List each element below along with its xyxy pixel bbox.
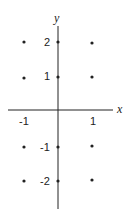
point xyxy=(22,179,25,182)
y-tick-label: 2 xyxy=(44,36,50,48)
y-axis-label: y xyxy=(53,11,60,25)
y-tick-label: -2 xyxy=(40,175,50,187)
point xyxy=(22,145,25,148)
coordinate-diagram: y x -1 1 2 1 -1 -2 xyxy=(0,0,134,220)
point xyxy=(22,76,25,79)
point xyxy=(90,144,93,147)
point xyxy=(56,179,59,182)
point xyxy=(90,41,93,44)
y-tick-label: 1 xyxy=(44,70,50,82)
point xyxy=(56,75,59,78)
point xyxy=(90,178,93,181)
x-axis-label: x xyxy=(116,102,123,116)
point xyxy=(56,145,59,148)
point xyxy=(22,40,25,43)
point xyxy=(90,75,93,78)
x-tick-label: 1 xyxy=(90,115,96,127)
x-tick-label: -1 xyxy=(19,115,29,127)
point xyxy=(56,40,59,43)
y-tick-label: -1 xyxy=(40,141,50,153)
